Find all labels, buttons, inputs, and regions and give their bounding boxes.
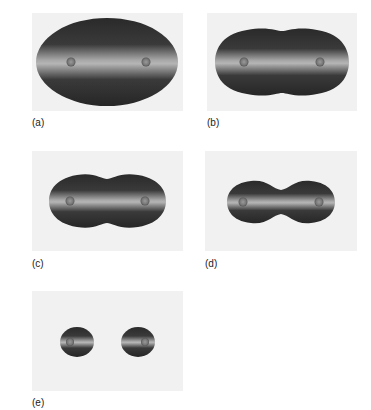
- panel-label-d: (d): [205, 258, 217, 269]
- isosurface-slight-waist: [207, 13, 357, 111]
- panel-label-c: (c): [32, 258, 44, 269]
- isosurface-deep-waist: [205, 151, 357, 251]
- panel-label-b: (b): [207, 117, 219, 128]
- panel-a: [32, 13, 183, 111]
- panel-label-e: (e): [32, 397, 44, 408]
- panel-d: [205, 151, 357, 251]
- isosurface-moderate-waist: [32, 151, 183, 251]
- nucleus-left-icon: [239, 198, 248, 207]
- panel-label-a: (a): [32, 117, 44, 128]
- nucleus-left-icon: [67, 58, 76, 67]
- nucleus-right-icon: [141, 197, 150, 206]
- panel-e: [32, 291, 183, 391]
- nucleus-left-icon: [66, 338, 74, 346]
- nucleus-left-icon: [66, 197, 75, 206]
- nucleus-left-icon: [240, 58, 249, 67]
- nucleus-right-icon: [141, 338, 149, 346]
- isosurface-separated: [32, 291, 183, 391]
- isosurface-ellipsoid: [32, 13, 183, 111]
- nucleus-right-icon: [142, 58, 151, 67]
- panel-b: [207, 13, 357, 111]
- panel-c: [32, 151, 183, 251]
- nucleus-right-icon: [315, 198, 324, 207]
- nucleus-right-icon: [316, 58, 325, 67]
